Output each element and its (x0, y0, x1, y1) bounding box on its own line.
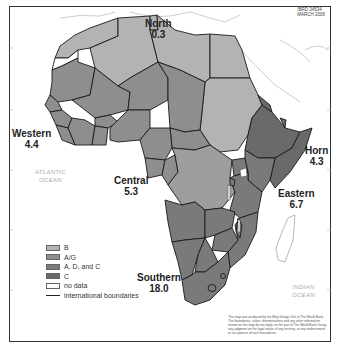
legend-swatch-c (46, 273, 60, 279)
legend-swatch-b (46, 245, 60, 251)
map-legend: B A/G A, D, and C C no data internationa… (46, 243, 139, 300)
legend-swatch-ag (46, 254, 60, 260)
legend-swatch-no-data (46, 283, 60, 289)
legend-item-c: C (46, 272, 139, 282)
map-id-stamp: IBRD 34534 MARCH 2006 (297, 7, 325, 17)
map-date: MARCH 2006 (297, 12, 325, 17)
ocean-label-atlantic: ATLANTIC OCEAN (35, 168, 66, 184)
region-label-central: Central 5.3 (114, 175, 148, 197)
lake-tanganyika (228, 185, 230, 200)
country-drc (168, 145, 235, 210)
region-label-western: Western 4.4 (12, 128, 51, 150)
country-swaziland (221, 274, 226, 279)
region-label-eastern: Eastern 6.7 (278, 188, 315, 210)
legend-item-no-data: no data (46, 281, 139, 291)
legend-line-boundary (46, 295, 60, 296)
legend-swatch-adc (46, 264, 60, 270)
legend-item-b: B (46, 243, 139, 253)
lake-malawi (238, 220, 240, 232)
country-lesotho (208, 285, 216, 292)
ocean-label-indian: INDIAN OCEAN (292, 283, 315, 299)
map-disclaimer: This map was produced by the Map Design … (228, 315, 328, 335)
region-label-north: North 0.3 (145, 18, 172, 40)
eastern-region (230, 150, 275, 218)
country-egypt (210, 34, 250, 78)
legend-item-adc: A, D, and C (46, 262, 139, 272)
region-label-southern: Southern 18.0 (137, 272, 181, 294)
country-ghana (92, 126, 108, 145)
country-madagascar (276, 215, 295, 262)
country-angola (165, 200, 205, 242)
legend-item-ag: A/G (46, 253, 139, 263)
region-label-horn: Horn 4.3 (305, 145, 328, 167)
legend-item-boundaries: international boundaries (46, 291, 139, 301)
